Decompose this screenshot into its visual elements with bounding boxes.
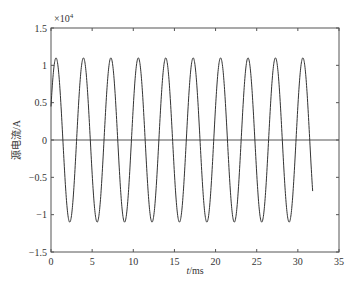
y-tick-label: −1.5: [29, 247, 47, 258]
x-axis-ticks: 05101520253035: [49, 28, 345, 267]
y-tick-label: −0.5: [29, 172, 47, 183]
x-axis-label: t/ms: [186, 265, 203, 276]
y-tick-label: 1.5: [35, 23, 48, 34]
chart: 05101520253035 −1.5−1−0.500.511.5 ×104 t…: [0, 0, 355, 291]
x-tick-label: 20: [211, 256, 221, 267]
x-tick-label: 35: [334, 256, 344, 267]
x-tick-label: 30: [293, 256, 303, 267]
y-tick-label: −1: [36, 209, 47, 220]
x-tick-label: 10: [128, 256, 138, 267]
x-tick-label: 25: [252, 256, 262, 267]
y-tick-label: 0.5: [35, 97, 48, 108]
x-tick-label: 15: [169, 256, 179, 267]
x-tick-label: 5: [90, 256, 95, 267]
y-tick-label: 0: [42, 135, 47, 146]
y-axis-exponent: ×104: [54, 12, 74, 24]
y-axis-label: 源电流/A: [10, 119, 22, 160]
x-tick-label: 0: [49, 256, 54, 267]
y-tick-label: 1: [42, 60, 47, 71]
